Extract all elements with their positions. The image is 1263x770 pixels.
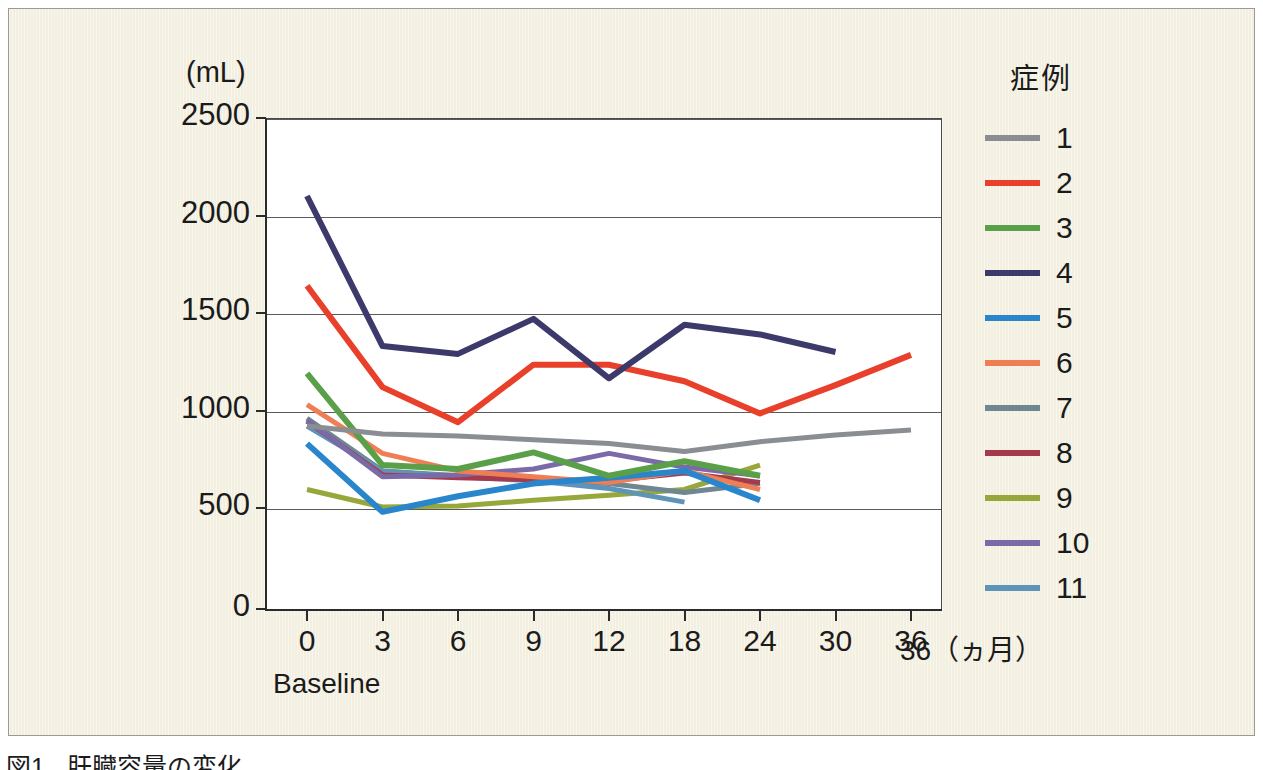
legend-label-1: 1 <box>1056 123 1073 153</box>
legend-item-6[interactable]: 6 <box>985 340 1215 385</box>
series-line-2 <box>307 286 911 423</box>
legend-label-3: 3 <box>1056 213 1073 243</box>
legend-item-7[interactable]: 7 <box>985 385 1215 430</box>
figure-caption: 図1肝臓容量の変化 <box>6 747 242 770</box>
legend-item-8[interactable]: 8 <box>985 430 1215 475</box>
legend-item-1[interactable]: 1 <box>985 115 1215 160</box>
legend-swatch-icon-4 <box>985 270 1040 276</box>
figure-root: (mL) 25002000150010005000 03691218243036… <box>0 0 1263 770</box>
legend-item-5[interactable]: 5 <box>985 295 1215 340</box>
caption-text: 肝臓容量の変化 <box>67 753 242 770</box>
legend-item-3[interactable]: 3 <box>985 205 1215 250</box>
legend-swatch-icon-3 <box>985 225 1040 231</box>
legend-label-6: 6 <box>1056 348 1073 378</box>
legend-title: 症例 <box>1010 55 1215 97</box>
legend-swatch-icon-9 <box>985 495 1040 501</box>
legend-label-4: 4 <box>1056 258 1073 288</box>
legend-swatch-icon-11 <box>985 585 1040 591</box>
legend-item-2[interactable]: 2 <box>985 160 1215 205</box>
legend-label-11: 11 <box>1056 573 1087 603</box>
legend-label-8: 8 <box>1056 438 1073 468</box>
legend-items: 1234567891011 <box>985 115 1215 610</box>
series-line-1 <box>307 426 911 451</box>
caption-number: 図1 <box>6 753 45 770</box>
legend-label-2: 2 <box>1056 168 1073 198</box>
legend-swatch-icon-1 <box>985 135 1040 141</box>
legend-swatch-icon-10 <box>985 540 1040 546</box>
legend-swatch-icon-7 <box>985 405 1040 411</box>
legend-label-10: 10 <box>1056 528 1089 558</box>
series-line-4 <box>307 196 836 378</box>
legend-swatch-icon-2 <box>985 180 1040 186</box>
legend-item-11[interactable]: 11 <box>985 565 1215 610</box>
legend-label-7: 7 <box>1056 393 1073 423</box>
legend-swatch-icon-8 <box>985 450 1040 456</box>
legend-label-9: 9 <box>1056 483 1073 513</box>
series-line-3 <box>307 373 760 475</box>
legend-item-10[interactable]: 10 <box>985 520 1215 565</box>
legend-item-4[interactable]: 4 <box>985 250 1215 295</box>
legend-item-9[interactable]: 9 <box>985 475 1215 520</box>
legend-swatch-icon-5 <box>985 315 1040 321</box>
legend-label-5: 5 <box>1056 303 1073 333</box>
legend: 症例 1234567891011 <box>985 55 1215 610</box>
legend-swatch-icon-6 <box>985 360 1040 366</box>
